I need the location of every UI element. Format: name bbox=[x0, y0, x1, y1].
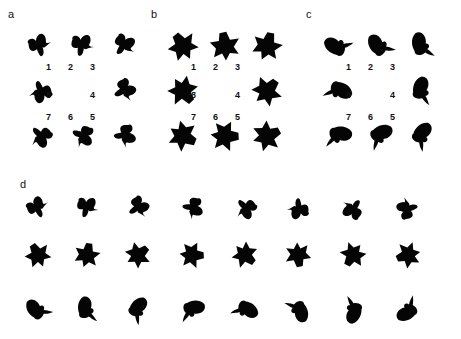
panel-a-position-2: 2 bbox=[68, 62, 73, 72]
panel-d-row-1-shape-1-path bbox=[24, 193, 53, 221]
panel-d-row-3-shape-4-path bbox=[176, 295, 207, 328]
panel-d-row-1-shape-3-path bbox=[124, 193, 153, 223]
panel-b-position-6: 6 bbox=[213, 112, 218, 122]
panel-d-row-1-shape-5-path bbox=[230, 194, 259, 224]
panel-d-row-3-shape-1-path bbox=[26, 300, 53, 320]
panel-label-a: a bbox=[8, 8, 14, 20]
panel-d-row-3-shape-3 bbox=[118, 290, 158, 330]
panel-b-shape-4 bbox=[247, 71, 287, 111]
panel-b-position-2: 2 bbox=[213, 62, 218, 72]
panel-d-row-2-shape-3 bbox=[118, 235, 158, 275]
panel-d-row-1-shape-6-path bbox=[285, 197, 310, 221]
panel-c-shape-3 bbox=[402, 26, 442, 66]
panel-d-row-1-shape-1 bbox=[18, 188, 58, 228]
panel-d-row-2-shape-3-path bbox=[121, 238, 154, 272]
panel-b-shape-3 bbox=[247, 26, 287, 66]
panel-c-position-3: 3 bbox=[390, 62, 395, 72]
panel-a-shape-3 bbox=[104, 26, 144, 66]
panel-d-row-1-shape-7 bbox=[333, 188, 373, 228]
panel-c-shape-6-path bbox=[366, 121, 394, 154]
panel-b-position-4: 4 bbox=[235, 90, 240, 100]
panel-b-shape-7-path bbox=[163, 115, 204, 156]
panel-a-shape-4-path bbox=[110, 76, 140, 107]
panel-d-row-2-shape-2 bbox=[67, 235, 107, 275]
panel-d-row-2-shape-6 bbox=[278, 235, 318, 275]
panel-b-position-7: 7 bbox=[191, 112, 196, 122]
panel-d-row-2-shape-6-path bbox=[285, 242, 313, 269]
panel-a-shape-1-path bbox=[26, 31, 55, 59]
panel-d-row-1-shape-2 bbox=[67, 188, 107, 228]
panel-d-row-2-shape-1-path bbox=[22, 240, 53, 270]
panel-d-row-1-shape-2-path bbox=[75, 196, 100, 220]
panel-d-row-1-shape-3 bbox=[118, 188, 158, 228]
panel-d-row-2-shape-8 bbox=[388, 235, 428, 275]
panel-c-position-8: 8 bbox=[346, 90, 351, 100]
panel-d-row-1-shape-5 bbox=[225, 188, 265, 228]
panel-c-shape-1 bbox=[318, 26, 358, 66]
panel-c-shape-4 bbox=[402, 71, 442, 111]
panel-b-shape-1-path bbox=[164, 28, 202, 65]
panel-b-shape-4-path bbox=[246, 70, 286, 111]
panel-d-row-2-shape-8-path bbox=[395, 242, 422, 270]
panel-a-shape-6-path bbox=[69, 123, 95, 150]
panel-d-row-3-shape-2 bbox=[67, 290, 107, 330]
panel-c-shape-2 bbox=[360, 26, 400, 66]
panel-b-shape-6-path bbox=[207, 117, 242, 153]
panel-c-shape-7 bbox=[318, 116, 358, 156]
panel-d-row-1-shape-4-path bbox=[183, 198, 203, 220]
panel-d-row-2-shape-2-path bbox=[70, 238, 104, 271]
panel-d-row-2-shape-5-path bbox=[228, 237, 263, 272]
panel-c-shape-5 bbox=[402, 116, 442, 156]
panel-a-shape-7-path bbox=[25, 121, 56, 152]
panel-a-shape-2-path bbox=[70, 34, 95, 57]
panel-a-shape-5 bbox=[104, 116, 144, 156]
panel-d-row-1-shape-7-path bbox=[338, 194, 367, 222]
panel-c-position-4: 4 bbox=[390, 90, 395, 100]
panel-d-row-3-shape-8 bbox=[388, 290, 428, 330]
panel-b-shape-7 bbox=[163, 116, 203, 156]
panel-d-row-3-shape-5-path bbox=[227, 297, 259, 325]
panel-a-shape-5-path bbox=[112, 123, 137, 149]
panel-a-shape-4 bbox=[104, 71, 144, 111]
panel-d-row-1-shape-4 bbox=[172, 188, 212, 228]
panel-c-shape-2-path bbox=[367, 34, 397, 57]
panel-d-row-3-shape-7 bbox=[333, 290, 373, 330]
panel-d-row-3-shape-1 bbox=[18, 290, 58, 330]
panel-d-row-1-shape-8-path bbox=[394, 194, 420, 221]
panel-a-position-3: 3 bbox=[90, 62, 95, 72]
panel-a-shape-7 bbox=[20, 116, 60, 156]
panel-a-position-4: 4 bbox=[90, 90, 95, 100]
panel-c-position-7: 7 bbox=[346, 112, 351, 122]
panel-b-position-8: 8 bbox=[191, 90, 196, 100]
panel-d-row-1-shape-6 bbox=[278, 188, 318, 228]
panel-c-position-6: 6 bbox=[368, 112, 373, 122]
panel-d-row-3-shape-6 bbox=[278, 290, 318, 330]
panel-d-row-3-shape-5 bbox=[225, 290, 265, 330]
panel-b-shape-3-path bbox=[247, 26, 287, 66]
panel-d-row-2-shape-7-path bbox=[336, 238, 372, 274]
panel-b-shape-8-path bbox=[164, 72, 203, 110]
panel-b-shape-5-path bbox=[250, 118, 283, 152]
panel-label-b: b bbox=[151, 8, 157, 20]
panel-d-row-3-shape-3-path bbox=[127, 297, 151, 327]
panel-c-position-2: 2 bbox=[368, 62, 373, 72]
panel-b-shape-1 bbox=[163, 26, 203, 66]
panel-d-row-2-shape-4-path bbox=[177, 239, 207, 270]
panel-b-shape-2-path bbox=[208, 30, 240, 61]
panel-b-shape-5 bbox=[247, 116, 287, 156]
panel-b-shape-2 bbox=[205, 26, 245, 66]
panel-d-row-3-shape-8-path bbox=[396, 293, 420, 323]
panel-c-shape-4-path bbox=[407, 75, 441, 110]
panel-d-row-3-shape-7-path bbox=[336, 292, 367, 325]
panel-d-row-2-shape-4 bbox=[172, 235, 212, 275]
panel-b-shape-8 bbox=[163, 71, 203, 111]
panel-c-shape-8 bbox=[318, 71, 358, 111]
panel-d-row-3-shape-4 bbox=[172, 290, 212, 330]
panel-c-shape-6 bbox=[360, 116, 400, 156]
panel-a-shape-8 bbox=[20, 71, 60, 111]
panel-b-shape-6 bbox=[205, 116, 245, 156]
panel-d-row-3-shape-6-path bbox=[280, 296, 312, 324]
panel-d-row-2-shape-5 bbox=[225, 235, 265, 275]
panel-d-row-1-shape-8 bbox=[388, 188, 428, 228]
panel-c-shape-5-path bbox=[410, 122, 436, 154]
